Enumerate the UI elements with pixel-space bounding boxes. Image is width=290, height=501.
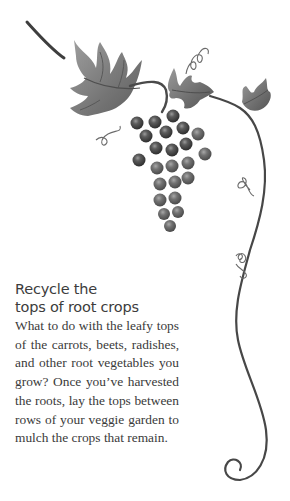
grape-bunch bbox=[131, 110, 212, 233]
large-leaf-icon bbox=[70, 40, 142, 116]
tendril-top bbox=[186, 48, 208, 74]
vine-stem bbox=[130, 82, 167, 112]
heading-line-1: Recycle the bbox=[15, 280, 179, 298]
article-body: What to do with the leafy tops of the ca… bbox=[15, 317, 179, 448]
heading-line-2: tops of root crops bbox=[15, 298, 179, 316]
article: Recycle the tops of root crops What to d… bbox=[15, 280, 179, 448]
small-leaf-icon bbox=[168, 68, 214, 109]
right-leaf-icon bbox=[242, 78, 271, 111]
twig-stroke bbox=[27, 22, 64, 58]
tendril-left bbox=[96, 126, 120, 145]
vine-main bbox=[210, 96, 267, 480]
article-heading: Recycle the tops of root crops bbox=[15, 280, 179, 316]
tendril-right-upper bbox=[238, 178, 254, 196]
tendril-right-lower bbox=[236, 254, 246, 263]
